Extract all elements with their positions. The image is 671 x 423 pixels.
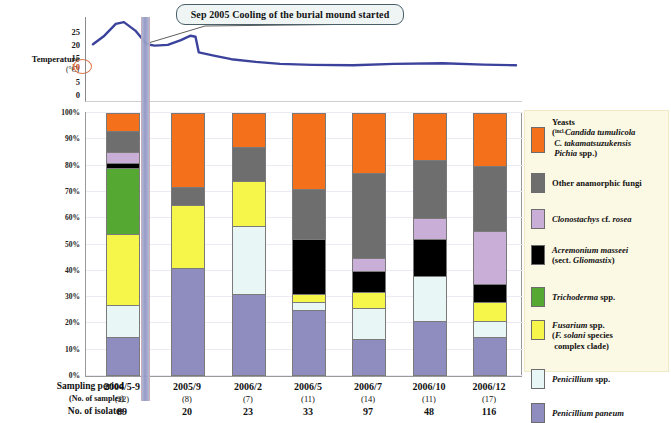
no-of-samples-2006/10: (11)	[397, 394, 461, 404]
bar-segment	[171, 205, 205, 268]
legend-yeasts-sp3-post: spp.)	[579, 148, 597, 158]
bar-segment	[171, 113, 205, 187]
no-of-isolates-2006/2: 23	[216, 406, 280, 417]
bar-2006/12[interactable]	[473, 113, 507, 376]
no-of-samples-2006/5: (11)	[276, 394, 340, 404]
legend-label-fusarium-spp: Fusarium spp. (F. solani species complex…	[552, 320, 613, 351]
legend-item-acremonium-masseei: Acremonium masseei (sect. Gliomastix)	[531, 245, 628, 266]
bar-segment	[473, 284, 507, 302]
legend-swatch-yeasts	[531, 127, 545, 153]
legend-fusarium-clade: complex clade)	[554, 341, 609, 351]
yaxis-tick-90: 90%	[54, 134, 80, 143]
legend-swatch-penicillium-paneum	[531, 403, 545, 423]
bar-segment	[232, 294, 266, 376]
legend-item-penicillium-spp: Penicillium spp.	[531, 369, 610, 389]
legend-yeasts-sp2: C. takamatsuzukensis	[554, 138, 631, 148]
legend-item-penicillium-paneum: Penicillium paneum	[531, 403, 624, 423]
no-of-isolates-2006/10: 48	[397, 406, 461, 417]
sampling-period-2006/10: 2006/10	[397, 381, 461, 392]
temp-tick-25: 25	[58, 27, 80, 37]
temp-tick-5: 5	[58, 77, 80, 87]
sampling-period-2006/2: 2006/2	[216, 381, 280, 392]
no-of-isolates-2004/5-9: 89	[90, 406, 154, 417]
legend-clonostachys-cf: cf.	[601, 214, 610, 224]
no-of-samples-2004/5-9: (22)	[90, 394, 154, 404]
bar-segment	[232, 226, 266, 294]
bar-segment	[352, 271, 386, 292]
legend-label-yeasts: Yeasts (incl.Candida tumulicola C. takam…	[552, 117, 635, 158]
bar-segment	[106, 305, 140, 337]
callout-leader-line	[145, 23, 380, 45]
no-of-isolates-2005/9: 20	[155, 406, 219, 417]
legend-penicillium-genus: Penicillium	[552, 374, 593, 384]
bar-segment	[352, 339, 386, 376]
legend-penicillium-spp: spp.	[595, 374, 610, 384]
bar-segment	[352, 173, 386, 257]
callout-text: Sep 2005 Cooling of the burial mound sta…	[177, 5, 403, 24]
legend-yeasts-sp1: Candida tumulicola	[565, 127, 635, 137]
legend-item-trichoderma-spp: Trichoderma spp.	[531, 287, 615, 307]
legend-label-clonostachys-cf-rosea: Clonostachys cf. rosea	[552, 209, 632, 224]
callout-box: Sep 2005 Cooling of the burial mound sta…	[176, 4, 404, 25]
sampling-period-2006/5: 2006/5	[276, 381, 340, 392]
bar-2004/5-9[interactable]	[106, 113, 140, 376]
legend-item-yeasts: Yeasts (incl.Candida tumulicola C. takam…	[531, 117, 635, 158]
legend-trichoderma-spp: spp.	[600, 292, 615, 302]
legend: Yeasts (incl.Candida tumulicola C. takam…	[524, 110, 669, 372]
bar-segment	[473, 166, 507, 232]
bar-segment	[292, 310, 326, 376]
bar-segment	[106, 168, 140, 234]
legend-fusarium-spp: spp.	[590, 320, 605, 330]
yaxis-tick-100: 100%	[54, 108, 80, 117]
bar-segment	[106, 131, 140, 152]
yaxis-tick-0: 0%	[54, 371, 80, 380]
bar-segment	[292, 113, 326, 189]
legend-item-fusarium-spp: Fusarium spp. (F. solani species complex…	[531, 320, 613, 351]
sampling-period-2006/12: 2006/12	[457, 381, 521, 392]
yaxis-tick-60: 60%	[54, 213, 80, 222]
bar-segment	[413, 239, 447, 276]
bar-segment	[473, 231, 507, 284]
bar-segment	[232, 181, 266, 226]
no-of-samples-2006/12: (17)	[457, 394, 521, 404]
bar-2005/9[interactable]	[171, 113, 205, 376]
bar-segment	[292, 239, 326, 294]
legend-acremonium-sect-post: )	[612, 255, 615, 265]
temp-tick-0: 0	[58, 90, 80, 100]
bar-2006/7[interactable]	[352, 113, 386, 376]
stacked-bar-chart-panel	[85, 112, 522, 377]
legend-item-clonostachys-cf-rosea: Clonostachys cf. rosea	[531, 209, 632, 229]
legend-swatch-other-anamorphic-fungi	[531, 173, 545, 193]
legend-swatch-clonostachys-cf-rosea	[531, 209, 545, 229]
legend-label-trichoderma-spp: Trichoderma spp.	[552, 287, 615, 302]
bar-segment	[106, 152, 140, 163]
bar-segment	[292, 189, 326, 239]
legend-fusarium-solani: F. solani	[555, 330, 585, 340]
sampling-period-2004/5-9: 2004/5-9	[90, 381, 154, 392]
bar-segment	[352, 308, 386, 340]
bar-2006/2[interactable]	[232, 113, 266, 376]
bar-2006/10[interactable]	[413, 113, 447, 376]
bar-segment	[232, 147, 266, 181]
bar-segment	[106, 234, 140, 305]
legend-yeasts-sp3: Pichia	[554, 148, 577, 158]
legend-trichoderma-genus: Trichoderma	[552, 292, 598, 302]
legend-fusarium-species: species	[587, 330, 612, 340]
bar-segment	[473, 337, 507, 376]
legend-clonostachys-species: rosea	[612, 214, 631, 224]
yaxis-tick-40: 40%	[54, 266, 80, 275]
temp-tick-20: 20	[58, 40, 80, 50]
bar-segment	[473, 321, 507, 337]
bar-2006/5[interactable]	[292, 113, 326, 376]
legend-swatch-fusarium-spp	[531, 320, 545, 340]
legend-swatch-trichoderma-spp	[531, 287, 545, 307]
legend-label-other-anamorphic-fungi: Other anamorphic fungi	[552, 173, 642, 188]
bar-segment	[413, 321, 447, 376]
bar-segment	[292, 294, 326, 302]
legend-yeasts-line1: Yeasts	[552, 117, 575, 127]
no-of-isolates-2006/12: 116	[457, 406, 521, 417]
legend-acremonium-name: Acremonium masseei	[552, 245, 628, 255]
no-of-samples-2006/2: (7)	[216, 394, 280, 404]
legend-label-acremonium-masseei: Acremonium masseei (sect. Gliomastix)	[552, 245, 628, 266]
